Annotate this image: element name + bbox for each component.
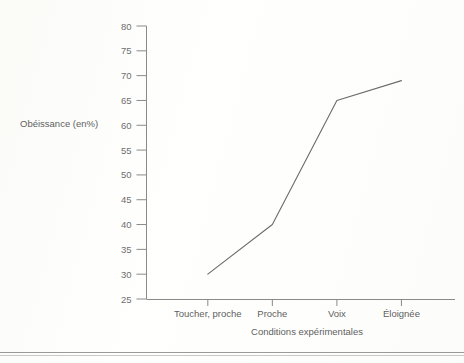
y-tick-marks bbox=[137, 26, 147, 299]
y-tick-label: 25 bbox=[121, 294, 132, 305]
page-horizontal-rule bbox=[0, 352, 464, 353]
y-tick-label: 60 bbox=[121, 120, 132, 131]
x-category-labels: Toucher, procheProcheVoixÉloignée bbox=[174, 308, 420, 319]
line-chart-figure: 253035404550556065707580 Toucher, proche… bbox=[0, 0, 464, 363]
obedience-line-series bbox=[208, 81, 402, 275]
y-tick-label: 50 bbox=[121, 169, 132, 180]
y-tick-label: 80 bbox=[121, 21, 132, 32]
x-category-label: Toucher, proche bbox=[174, 308, 242, 319]
y-axis-title: Obéissance (en%) bbox=[20, 118, 98, 129]
y-tick-label: 75 bbox=[121, 45, 132, 56]
document-page: 253035404550556065707580 Toucher, proche… bbox=[0, 0, 464, 363]
x-axis-title: Conditions expérimentales bbox=[251, 326, 363, 337]
y-tick-label: 70 bbox=[121, 70, 132, 81]
x-category-label: Éloignée bbox=[383, 308, 420, 319]
x-tick-marks bbox=[208, 299, 402, 306]
x-category-label: Voix bbox=[328, 308, 346, 319]
x-category-label: Proche bbox=[257, 308, 287, 319]
y-tick-label: 35 bbox=[121, 244, 132, 255]
chart-canvas: 253035404550556065707580 Toucher, proche… bbox=[0, 0, 464, 363]
y-tick-labels: 253035404550556065707580 bbox=[121, 21, 132, 305]
y-tick-label: 55 bbox=[121, 145, 132, 156]
x-axis-group: Toucher, procheProcheVoixÉloignée bbox=[147, 299, 456, 319]
y-tick-label: 40 bbox=[121, 219, 132, 230]
page-horizontal-rule-secondary bbox=[0, 355, 464, 356]
y-tick-label: 30 bbox=[121, 269, 132, 280]
y-axis-group: 253035404550556065707580 bbox=[121, 21, 147, 305]
y-tick-label: 65 bbox=[121, 95, 132, 106]
y-tick-label: 45 bbox=[121, 194, 132, 205]
